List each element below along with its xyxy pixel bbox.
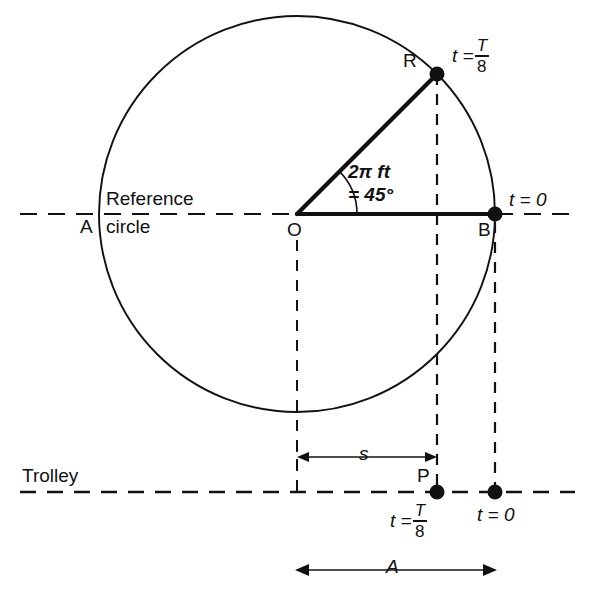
point-marker-trolley-t0 <box>488 485 503 500</box>
angle-line-1: 2π ft <box>348 161 390 182</box>
label-reference-line-2: circle <box>106 217 150 238</box>
label-displacement-s: s <box>359 444 369 465</box>
label-t-eq-0-top: t = 0 <box>509 190 547 211</box>
t-eq-text: t = <box>452 45 474 66</box>
label-point-b: B <box>478 220 491 241</box>
fraction-denominator-bottom: 8 <box>413 522 426 540</box>
point-marker-p <box>430 485 445 500</box>
label-reference-line-1: Reference <box>106 189 194 210</box>
reference-circle-diagram: t =T8 R 2π ft = 45° Reference circle A O… <box>0 0 592 602</box>
label-t-eq-T-over-8-bottom: t =T8 <box>390 503 428 541</box>
point-marker-r <box>430 67 445 82</box>
label-amplitude-a: A <box>386 557 399 578</box>
label-t-eq-T-over-8-top: t =T8 <box>452 38 490 76</box>
fraction-numerator: T <box>475 37 489 55</box>
t-eq-text-bottom: t = <box>390 510 412 531</box>
label-point-o: O <box>287 220 302 241</box>
fraction-T-over-8: T8 <box>475 37 489 75</box>
fraction-numerator-bottom: T <box>413 502 427 520</box>
angle-line-2: = 45° <box>348 184 393 205</box>
label-point-a: A <box>80 217 93 238</box>
label-trolley: Trolley <box>22 466 78 487</box>
label-angle-expression: 2π ft = 45° <box>348 160 393 206</box>
fraction-denominator: 8 <box>475 57 488 75</box>
label-t-eq-0-bottom: t = 0 <box>477 505 515 526</box>
label-point-p: P <box>417 466 430 487</box>
label-point-r: R <box>403 51 417 72</box>
fraction-T-over-8-bottom: T8 <box>413 502 427 540</box>
